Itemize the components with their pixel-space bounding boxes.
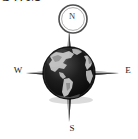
compass-label-south: S [66, 124, 78, 133]
compass-globe-illustration: SWM [0, 0, 138, 139]
compass-label-east: E [122, 66, 134, 75]
compass-label-north: N [66, 12, 78, 21]
compass-label-west: W [12, 66, 24, 75]
earth-globe [43, 45, 95, 104]
